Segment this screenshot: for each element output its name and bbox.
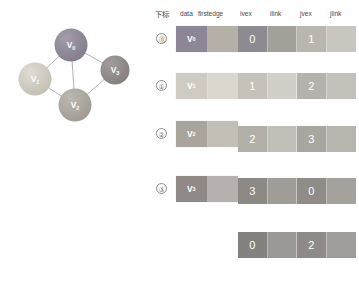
edge-ilink-cell-2 [268, 126, 298, 152]
edge-jvex-cell-3: 0 [297, 178, 327, 204]
edge-ivex-cell-4: 0 [238, 232, 268, 258]
vertex-row[interactable]: V1 [176, 73, 238, 99]
graph-svg: V0 V1 V2 V3 [0, 0, 150, 284]
graph-node-v0: V0 [55, 29, 88, 62]
header-jlink: jlink [330, 10, 341, 17]
vertex-row-index-2: ② [156, 128, 167, 139]
edge-ilink-cell-0 [268, 26, 298, 52]
edge-jvex-cell-0: 1 [297, 26, 327, 52]
vertex-row[interactable]: V0 [176, 26, 238, 52]
header-index: 下标 [155, 9, 169, 19]
vertex-row[interactable]: V2 [176, 121, 238, 147]
vertex-data-cell-2: V2 [176, 121, 208, 147]
vertex-data-cell-3: V3 [176, 176, 208, 202]
vertex-firstedge-cell-0 [208, 26, 239, 52]
edge-jlink-cell-2 [327, 126, 357, 152]
edge-jlink-cell-1 [327, 73, 357, 99]
header-ivex: ivex [240, 10, 252, 17]
edge-ivex-cell-0: 0 [238, 26, 268, 52]
edge-ilink-cell-1 [268, 73, 298, 99]
vertex-row-index-0: ⓪ [156, 33, 167, 44]
vertex-firstedge-cell-2 [208, 121, 239, 147]
vertex-row-index-1: ① [156, 80, 167, 91]
header-jvex: jvex [300, 10, 312, 17]
edge-jvex-cell-4: 2 [297, 232, 327, 258]
edge-node-row[interactable]: 02 [238, 232, 356, 258]
edge-ilink-cell-4 [268, 232, 298, 258]
edge-ivex-cell-3: 3 [238, 178, 268, 204]
edge-ilink-cell-3 [268, 178, 298, 204]
edge-jvex-cell-2: 3 [297, 126, 327, 152]
edge-jvex-cell-1: 2 [297, 73, 327, 99]
vertex-row[interactable]: V3 [176, 176, 238, 202]
edge-node-row[interactable]: 23 [238, 126, 356, 152]
graph-node-v3: V3 [101, 56, 130, 85]
vertex-data-cell-1: V1 [176, 73, 208, 99]
header-firstedge: firstedge [198, 10, 223, 17]
header-data: data [180, 10, 193, 17]
header-ilink: ilink [270, 10, 281, 17]
edge-ivex-cell-2: 2 [238, 126, 268, 152]
graph-node-v1: V1 [19, 63, 52, 96]
adjacency-multilist-figure: V0 V1 V2 V3 下标 data firstedge ivex ilink… [0, 0, 359, 284]
vertex-data-cell-0: V0 [176, 26, 208, 52]
edge-node-row[interactable]: 30 [238, 178, 356, 204]
vertex-firstedge-cell-3 [208, 176, 239, 202]
graph-panel: V0 V1 V2 V3 [0, 0, 150, 284]
vertex-firstedge-cell-1 [208, 73, 239, 99]
edge-jlink-cell-4 [327, 232, 357, 258]
edge-node-row[interactable]: 01 [238, 26, 356, 52]
edge-jlink-cell-0 [327, 26, 357, 52]
edge-jlink-cell-3 [327, 178, 357, 204]
graph-node-v2: V2 [59, 89, 92, 122]
edge-ivex-cell-1: 1 [238, 73, 268, 99]
edge-node-row[interactable]: 12 [238, 73, 356, 99]
vertex-row-index-3: ③ [156, 183, 167, 194]
